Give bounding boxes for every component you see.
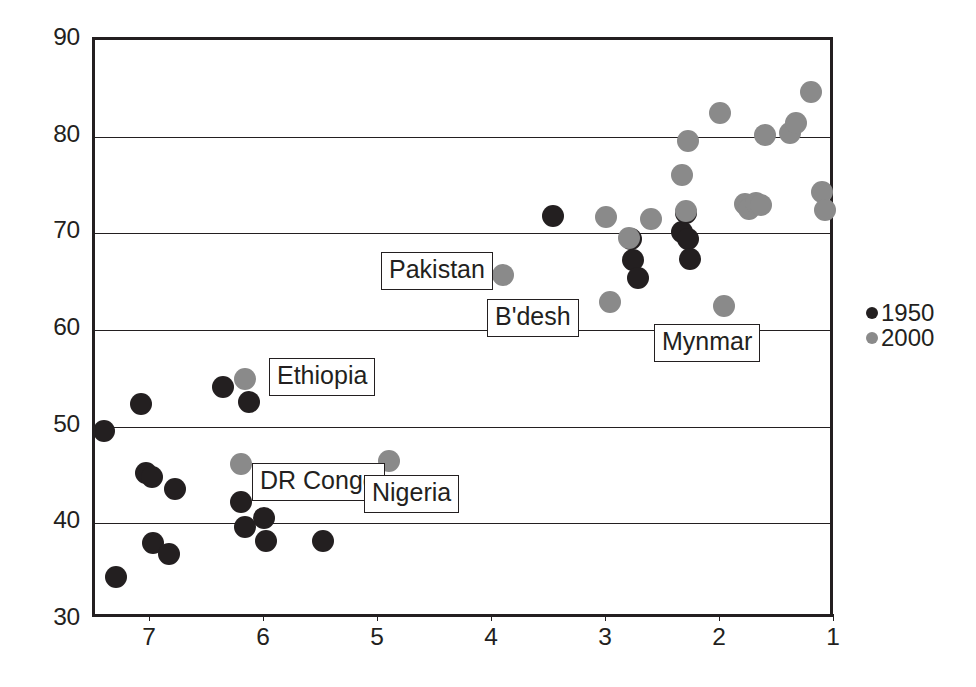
data-point <box>677 228 699 250</box>
data-point <box>814 199 836 221</box>
data-point <box>492 264 514 286</box>
data-point <box>312 530 334 552</box>
y-axis-tick-labels: 30405060708090 <box>0 37 80 617</box>
data-point <box>618 227 640 249</box>
y-tick-label-80: 80 <box>14 122 80 147</box>
data-point <box>675 200 697 222</box>
data-point <box>164 478 186 500</box>
legend-item-2000: 2000 <box>866 325 974 350</box>
x-tick-label-2: 2 <box>689 625 749 650</box>
data-point <box>255 530 277 552</box>
data-point <box>754 124 776 146</box>
y-tick-label-70: 70 <box>14 218 80 243</box>
data-point <box>713 295 735 317</box>
data-point <box>230 491 252 513</box>
data-point <box>130 393 152 415</box>
x-tickmark-4 <box>491 614 492 621</box>
data-point <box>212 376 234 398</box>
country-label-nigeria: Nigeria <box>364 475 459 513</box>
gridline-70 <box>95 233 830 234</box>
data-point <box>627 267 649 289</box>
x-tickmark-6 <box>263 614 264 621</box>
y-tick-label-50: 50 <box>14 412 80 437</box>
data-point <box>253 507 275 529</box>
legend-item-1950: 1950 <box>866 300 974 325</box>
legend-label: 1950 <box>881 301 934 325</box>
data-point <box>677 130 699 152</box>
x-tickmark-7 <box>149 614 150 621</box>
y-tick-label-90: 90 <box>14 25 80 50</box>
chart-legend: 19502000 <box>866 300 974 350</box>
x-tickmark-2 <box>719 614 720 621</box>
data-point <box>595 206 617 228</box>
data-point <box>105 566 127 588</box>
data-point <box>671 164 693 186</box>
data-point <box>141 466 163 488</box>
data-point <box>599 291 621 313</box>
legend-label: 2000 <box>881 326 934 350</box>
data-point <box>230 453 252 475</box>
data-point <box>750 194 772 216</box>
country-label-pakistan: Pakistan <box>381 252 493 290</box>
x-tick-label-7: 7 <box>119 625 179 650</box>
legend-swatch-icon <box>866 307 878 319</box>
x-tick-label-4: 4 <box>461 625 521 650</box>
y-tick-label-30: 30 <box>14 605 80 630</box>
data-point <box>785 112 807 134</box>
x-tick-label-3: 3 <box>575 625 635 650</box>
x-tickmark-5 <box>377 614 378 621</box>
x-tick-label-5: 5 <box>347 625 407 650</box>
data-point <box>158 543 180 565</box>
data-point <box>640 208 662 230</box>
data-point <box>238 391 260 413</box>
country-label-mynmar: Mynmar <box>654 324 760 362</box>
y-tick-label-60: 60 <box>14 315 80 340</box>
country-label-ethiopia: Ethiopia <box>269 358 375 396</box>
gridline-40 <box>95 523 830 524</box>
x-tickmark-3 <box>605 614 606 621</box>
scatter-chart: 30405060708090 7654321 PakistanB'deshMyn… <box>0 0 976 687</box>
data-point <box>93 420 115 442</box>
legend-swatch-icon <box>866 332 878 344</box>
data-point <box>800 81 822 103</box>
data-point <box>542 205 564 227</box>
gridline-50 <box>95 427 830 428</box>
data-point <box>679 248 701 270</box>
data-point <box>709 102 731 124</box>
gridline-80 <box>95 137 830 138</box>
country-label-b-desh: B'desh <box>487 299 579 337</box>
data-point <box>234 368 256 390</box>
y-tick-label-40: 40 <box>14 508 80 533</box>
x-tickmark-1 <box>833 614 834 621</box>
x-tick-label-1: 1 <box>803 625 863 650</box>
x-axis-tick-labels: 7654321 <box>92 625 833 665</box>
x-tick-label-6: 6 <box>233 625 293 650</box>
